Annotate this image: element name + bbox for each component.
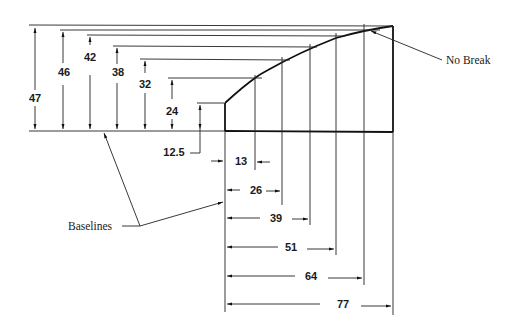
svg-text:13: 13 bbox=[235, 155, 247, 167]
svg-text:12.5: 12.5 bbox=[163, 146, 184, 158]
width-dimension-26: 26 bbox=[227, 184, 280, 196]
svg-text:Baselines: Baselines bbox=[68, 220, 113, 232]
height-dimension-32: 32 bbox=[139, 61, 151, 129]
svg-text:32: 32 bbox=[139, 78, 151, 90]
svg-text:39: 39 bbox=[270, 212, 282, 224]
profile-outline bbox=[225, 26, 393, 132]
width-dimension-64: 64 bbox=[227, 270, 362, 282]
svg-text:38: 38 bbox=[112, 66, 124, 78]
height-dimension-47: 47 bbox=[29, 28, 41, 129]
height-dimension-38: 38 bbox=[112, 48, 124, 129]
svg-text:47: 47 bbox=[29, 92, 41, 104]
profile-diagram: 47 46 42 38 32 24 12.5 13 26 bbox=[0, 0, 515, 332]
svg-text:26: 26 bbox=[250, 184, 262, 196]
svg-text:No Break: No Break bbox=[446, 54, 491, 66]
width-dimension-77: 77 bbox=[227, 298, 391, 310]
width-dimension-39: 39 bbox=[227, 212, 308, 224]
svg-text:42: 42 bbox=[84, 51, 96, 63]
height-dimension-42: 42 bbox=[84, 37, 96, 129]
svg-text:24: 24 bbox=[166, 105, 179, 117]
width-dimension-13: 13 bbox=[211, 155, 270, 167]
svg-text:51: 51 bbox=[285, 241, 297, 253]
no-break-callout: No Break bbox=[371, 31, 491, 66]
svg-text:77: 77 bbox=[337, 298, 349, 310]
svg-text:64: 64 bbox=[305, 270, 318, 282]
height-dimension-24: 24 bbox=[166, 80, 179, 129]
height-dimension-46: 46 bbox=[58, 32, 70, 129]
width-dimension-51: 51 bbox=[227, 241, 334, 253]
svg-text:46: 46 bbox=[58, 66, 70, 78]
